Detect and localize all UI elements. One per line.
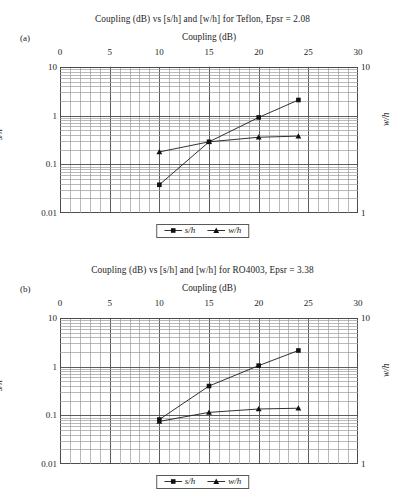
square-marker	[256, 115, 261, 120]
plot-area-b	[60, 318, 358, 464]
triangle-marker	[207, 477, 225, 486]
x-tick-label: 25	[304, 298, 313, 308]
y-right-tick-label: 10	[361, 62, 370, 72]
figure-page: Coupling (dB) vs [s/h] and [w/h] for Tef…	[0, 0, 405, 502]
x-tick-labels-b: 051015202530	[60, 298, 358, 314]
figure-b: Coupling (dB) vs [s/h] and [w/h] for RO4…	[0, 251, 405, 502]
x-tick-labels-a: 051015202530	[60, 47, 358, 63]
x-axis-title-b: Coupling (dB)	[60, 283, 358, 293]
y-left-tick-labels-a: 1010.10.01	[24, 67, 57, 213]
x-tick-label: 15	[205, 47, 214, 57]
plot-canvas-a	[60, 67, 358, 213]
x-tick-label: 30	[354, 47, 363, 57]
legend-label: s/h	[185, 477, 196, 486]
chart-title-a: Coupling (dB) vs [s/h] and [w/h] for Tef…	[0, 14, 405, 24]
x-tick-label: 5	[107, 298, 112, 308]
legend-entry: w/h	[207, 477, 241, 486]
y-left-axis-name-a: s/h	[0, 129, 4, 140]
square-marker	[256, 363, 261, 368]
series-line-w-h	[159, 136, 298, 152]
x-tick-label: 20	[254, 298, 263, 308]
y-left-tick-label: 10	[48, 313, 57, 323]
legend-entry: s/h	[164, 477, 196, 486]
y-right-axis-name-b: w/h	[381, 364, 391, 377]
y-left-tick-label: 0.01	[41, 208, 57, 218]
y-right-axis-name-a: w/h	[381, 113, 391, 126]
y-left-tick-label: 1	[53, 111, 58, 121]
y-left-tick-labels-b: 1010.10.01	[24, 318, 57, 464]
square-marker	[157, 182, 162, 187]
triangle-marker	[207, 226, 225, 235]
y-right-tick-labels-b: 101	[361, 318, 395, 464]
y-right-tick-labels-a: 101	[361, 67, 395, 213]
y-left-tick-label: 10	[48, 62, 57, 72]
y-right-tick-label: 1	[361, 208, 366, 218]
square-marker	[164, 477, 182, 486]
series-line-w-h	[159, 408, 298, 421]
square-marker	[164, 226, 182, 235]
x-tick-label: 25	[304, 47, 313, 57]
plot-canvas-b	[60, 318, 358, 464]
x-tick-label: 20	[254, 47, 263, 57]
y-left-tick-label: 0.1	[46, 159, 57, 169]
y-right-tick-label: 1	[361, 459, 366, 469]
chart-title-b: Coupling (dB) vs [s/h] and [w/h] for RO4…	[0, 265, 405, 275]
x-tick-label: 30	[354, 298, 363, 308]
y-left-axis-name-b: s/h	[0, 380, 4, 391]
square-marker	[296, 98, 301, 103]
y-right-tick-label: 10	[361, 313, 370, 323]
legend-b: s/hw/h	[156, 475, 250, 489]
legend-label: w/h	[228, 477, 241, 486]
legend-label: w/h	[228, 226, 241, 235]
legend-entry: w/h	[207, 226, 241, 235]
x-tick-label: 5	[107, 47, 112, 57]
panel-label-a: (a)	[20, 33, 30, 43]
x-tick-label: 10	[155, 47, 164, 57]
figure-a: Coupling (dB) vs [s/h] and [w/h] for Tef…	[0, 0, 405, 251]
legend-label: s/h	[185, 226, 196, 235]
y-left-tick-label: 0.01	[41, 459, 57, 469]
legend-a: s/hw/h	[156, 224, 250, 238]
square-marker	[296, 348, 301, 353]
plot-area-a	[60, 67, 358, 213]
series-line-s-h	[159, 100, 298, 185]
x-tick-label: 10	[155, 298, 164, 308]
square-marker	[207, 384, 212, 389]
x-tick-label: 0	[58, 47, 63, 57]
y-left-tick-label: 1	[53, 362, 58, 372]
series-line-s-h	[159, 350, 298, 419]
legend-entry: s/h	[164, 226, 196, 235]
x-tick-label: 0	[58, 298, 63, 308]
panel-label-b: (b)	[20, 284, 31, 294]
y-left-tick-label: 0.1	[46, 410, 57, 420]
x-axis-title-a: Coupling (dB)	[60, 32, 358, 42]
x-tick-label: 15	[205, 298, 214, 308]
